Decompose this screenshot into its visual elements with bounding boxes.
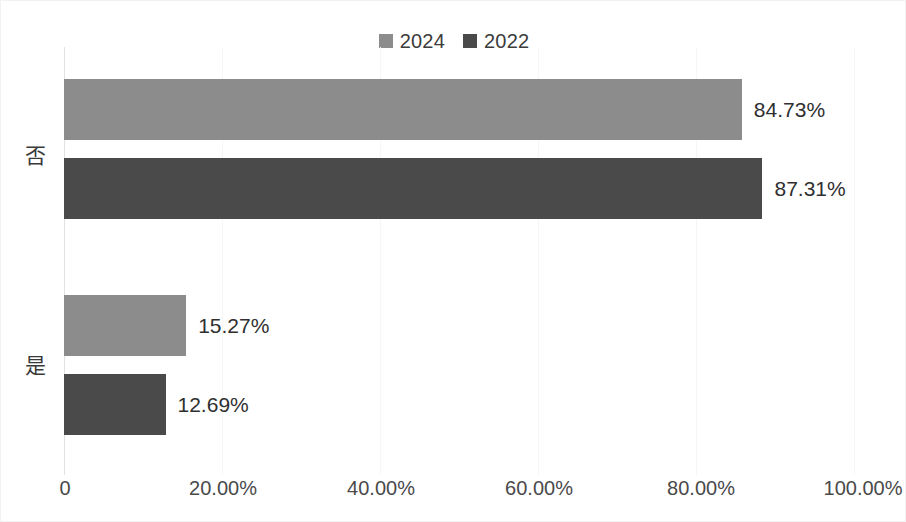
x-tick-label-80: 80.00% <box>667 478 735 498</box>
legend-swatch-icon-2024 <box>379 34 393 48</box>
bar-row: 15.27% <box>64 295 269 356</box>
x-tick-label-100: 100.00% <box>824 478 903 498</box>
bar-value-label: 87.31% <box>774 178 845 199</box>
x-tick-label-40: 40.00% <box>347 478 415 498</box>
x-tick-label-0: 0 <box>59 478 70 498</box>
x-tick-label-20: 20.00% <box>189 478 257 498</box>
bar-value-label: 15.27% <box>198 315 269 336</box>
bar-yes-2022[interactable] <box>64 374 166 435</box>
category-label-no: 否 <box>15 146 55 167</box>
gridline-100 <box>854 47 855 475</box>
x-tick-label-60: 60.00% <box>505 478 573 498</box>
bar-row: 87.31% <box>64 158 846 219</box>
legend-swatch-icon-2022 <box>463 34 477 48</box>
bar-no-2024[interactable] <box>64 79 742 140</box>
bar-yes-2024[interactable] <box>64 295 186 356</box>
bar-value-label: 12.69% <box>178 394 249 415</box>
bar-no-2022[interactable] <box>64 158 762 219</box>
category-label-yes: 是 <box>15 356 55 377</box>
bar-chart: 2024 2022 84.73% 87.31% 15.27% <box>0 0 906 522</box>
bar-row: 84.73% <box>64 79 825 140</box>
bar-value-label: 84.73% <box>754 99 825 120</box>
plot-area: 84.73% 87.31% 15.27% 12.69% <box>64 47 864 475</box>
bar-row: 12.69% <box>64 374 249 435</box>
